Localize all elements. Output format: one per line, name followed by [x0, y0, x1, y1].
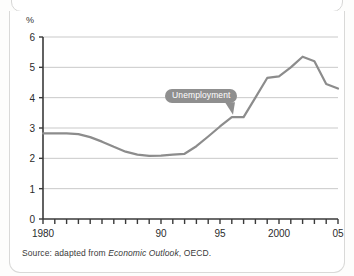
source-note: Source: adapted from Economic Outlook, O…	[22, 248, 211, 258]
y-axis-tick-label: 1	[21, 183, 35, 194]
annotation-callout: Unemployment	[165, 89, 237, 103]
x-axis-tick-label: 1980	[32, 228, 54, 239]
unemployment-line-chart: % 0123456 19809095200005 Unemployment	[0, 0, 354, 276]
y-axis-tick-label: 0	[21, 214, 35, 225]
y-axis-tick-label: 6	[21, 32, 35, 43]
figure-root: % 0123456 19809095200005 Unemployment So…	[0, 0, 354, 276]
source-note-publication: Economic Outlook	[108, 248, 179, 258]
y-axis-tick-label: 3	[21, 123, 35, 134]
y-axis-tick-label: 4	[21, 92, 35, 103]
y-axis-tick-label: 2	[21, 153, 35, 164]
data-series-line	[43, 57, 338, 156]
annotation-callout-tail	[225, 102, 235, 115]
source-note-prefix: Source: adapted from	[22, 248, 108, 258]
y-axis-tick-label: 5	[21, 62, 35, 73]
x-axis-tick-label: 95	[214, 228, 225, 239]
x-axis-tick-label: 2000	[268, 228, 290, 239]
source-note-suffix: , OECD.	[179, 248, 211, 258]
x-axis-tick-label: 90	[155, 228, 166, 239]
x-axis-tick-label: 05	[332, 228, 343, 239]
